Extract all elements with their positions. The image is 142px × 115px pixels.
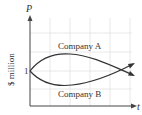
y-unit-label: $ million — [6, 53, 16, 86]
y-tick-1: 1 — [24, 66, 29, 76]
y-axis-label: P — [25, 3, 32, 14]
x-axis-label: t — [137, 101, 140, 112]
company-b-arrow-icon — [128, 63, 135, 69]
chart: P t 1 $ million Company A Company B — [0, 0, 142, 115]
company-b-curve — [30, 64, 133, 85]
company-a-label: Company A — [58, 41, 102, 51]
company-b-label: Company B — [58, 89, 101, 99]
company-a-arrow-icon — [128, 71, 135, 76]
y-axis-arrow-icon — [28, 15, 33, 21]
